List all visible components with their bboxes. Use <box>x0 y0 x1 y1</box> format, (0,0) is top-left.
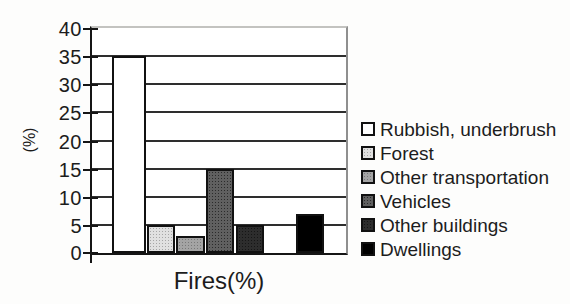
bar-other-transportation <box>176 236 205 253</box>
plot-area <box>90 26 348 255</box>
legend-item-other-buildings: Other buildings <box>361 213 556 237</box>
y-tick-20 <box>83 141 98 143</box>
x-axis-origin-tick <box>90 253 92 263</box>
y-tick-label-30: 30 <box>48 74 82 96</box>
legend: Rubbish, underbrushForestOther transport… <box>361 117 556 261</box>
legend-item-forest: Forest <box>361 141 556 165</box>
legend-label-other-buildings: Other buildings <box>380 216 508 235</box>
legend-swatch-forest <box>361 146 375 160</box>
y-tick-15 <box>83 169 98 171</box>
y-tick-label-15: 15 <box>48 159 82 181</box>
y-tick-label-20: 20 <box>48 131 82 153</box>
y-tick-label-0: 0 <box>48 242 82 264</box>
legend-item-rubbish-underbrush: Rubbish, underbrush <box>361 117 556 141</box>
legend-swatch-other-transportation <box>361 170 375 184</box>
legend-swatch-vehicles <box>361 194 375 208</box>
bar-vehicles <box>206 169 234 253</box>
legend-item-other-transportation: Other transportation <box>361 165 556 189</box>
x-axis-title: Fires(%) <box>90 267 348 295</box>
legend-label-vehicles: Vehicles <box>380 192 451 211</box>
bar-other-buildings <box>236 225 264 253</box>
fires-percentage-bar-chart: (%) Fires(%) Rubbish, underbrushForestOt… <box>0 0 570 304</box>
y-tick-5 <box>83 225 98 227</box>
legend-swatch-rubbish-underbrush <box>361 122 375 136</box>
y-tick-25 <box>83 112 98 114</box>
legend-label-forest: Forest <box>380 144 434 163</box>
y-axis-title: (%) <box>21 128 39 153</box>
y-tick-label-5: 5 <box>48 215 82 237</box>
y-tick-35 <box>83 56 98 58</box>
legend-label-dwellings: Dwellings <box>380 240 461 259</box>
legend-item-dwellings: Dwellings <box>361 237 556 261</box>
y-tick-30 <box>83 84 98 86</box>
bar-forest <box>147 225 175 253</box>
legend-label-other-transportation: Other transportation <box>380 168 549 187</box>
bar-rubbish-underbrush <box>112 56 146 253</box>
legend-item-vehicles: Vehicles <box>361 189 556 213</box>
y-tick-label-40: 40 <box>48 18 82 40</box>
y-tick-label-25: 25 <box>48 102 82 124</box>
y-tick-0 <box>83 252 98 254</box>
y-tick-10 <box>83 197 98 199</box>
legend-swatch-dwellings <box>361 242 375 256</box>
y-tick-label-35: 35 <box>48 46 82 68</box>
y-tick-40 <box>83 28 98 30</box>
legend-swatch-other-buildings <box>361 218 375 232</box>
y-tick-label-10: 10 <box>48 187 82 209</box>
bar-dwellings <box>296 214 324 253</box>
legend-label-rubbish-underbrush: Rubbish, underbrush <box>380 120 556 139</box>
